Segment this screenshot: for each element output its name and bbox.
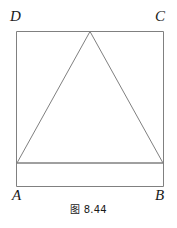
geometry-drawing	[0, 0, 177, 228]
vertex-label-d: D	[10, 9, 21, 24]
vertex-label-c: C	[155, 9, 165, 24]
geometry-figure: D C A B 图 8.44	[0, 0, 177, 228]
isosceles-triangle	[17, 32, 163, 164]
vertex-label-a: A	[12, 188, 21, 203]
vertex-label-b: B	[155, 188, 164, 203]
figure-caption: 图 8.44	[0, 203, 177, 216]
